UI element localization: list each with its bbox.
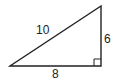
vertical-leg-label: 6 <box>104 33 111 45</box>
hypotenuse-label: 10 <box>36 24 49 36</box>
triangle-figure <box>0 0 118 81</box>
horizontal-leg-label: 8 <box>52 68 59 80</box>
triangle-shape <box>10 6 101 66</box>
right-triangle-diagram: 10 6 8 <box>0 0 118 81</box>
right-angle-marker-icon <box>94 59 101 66</box>
